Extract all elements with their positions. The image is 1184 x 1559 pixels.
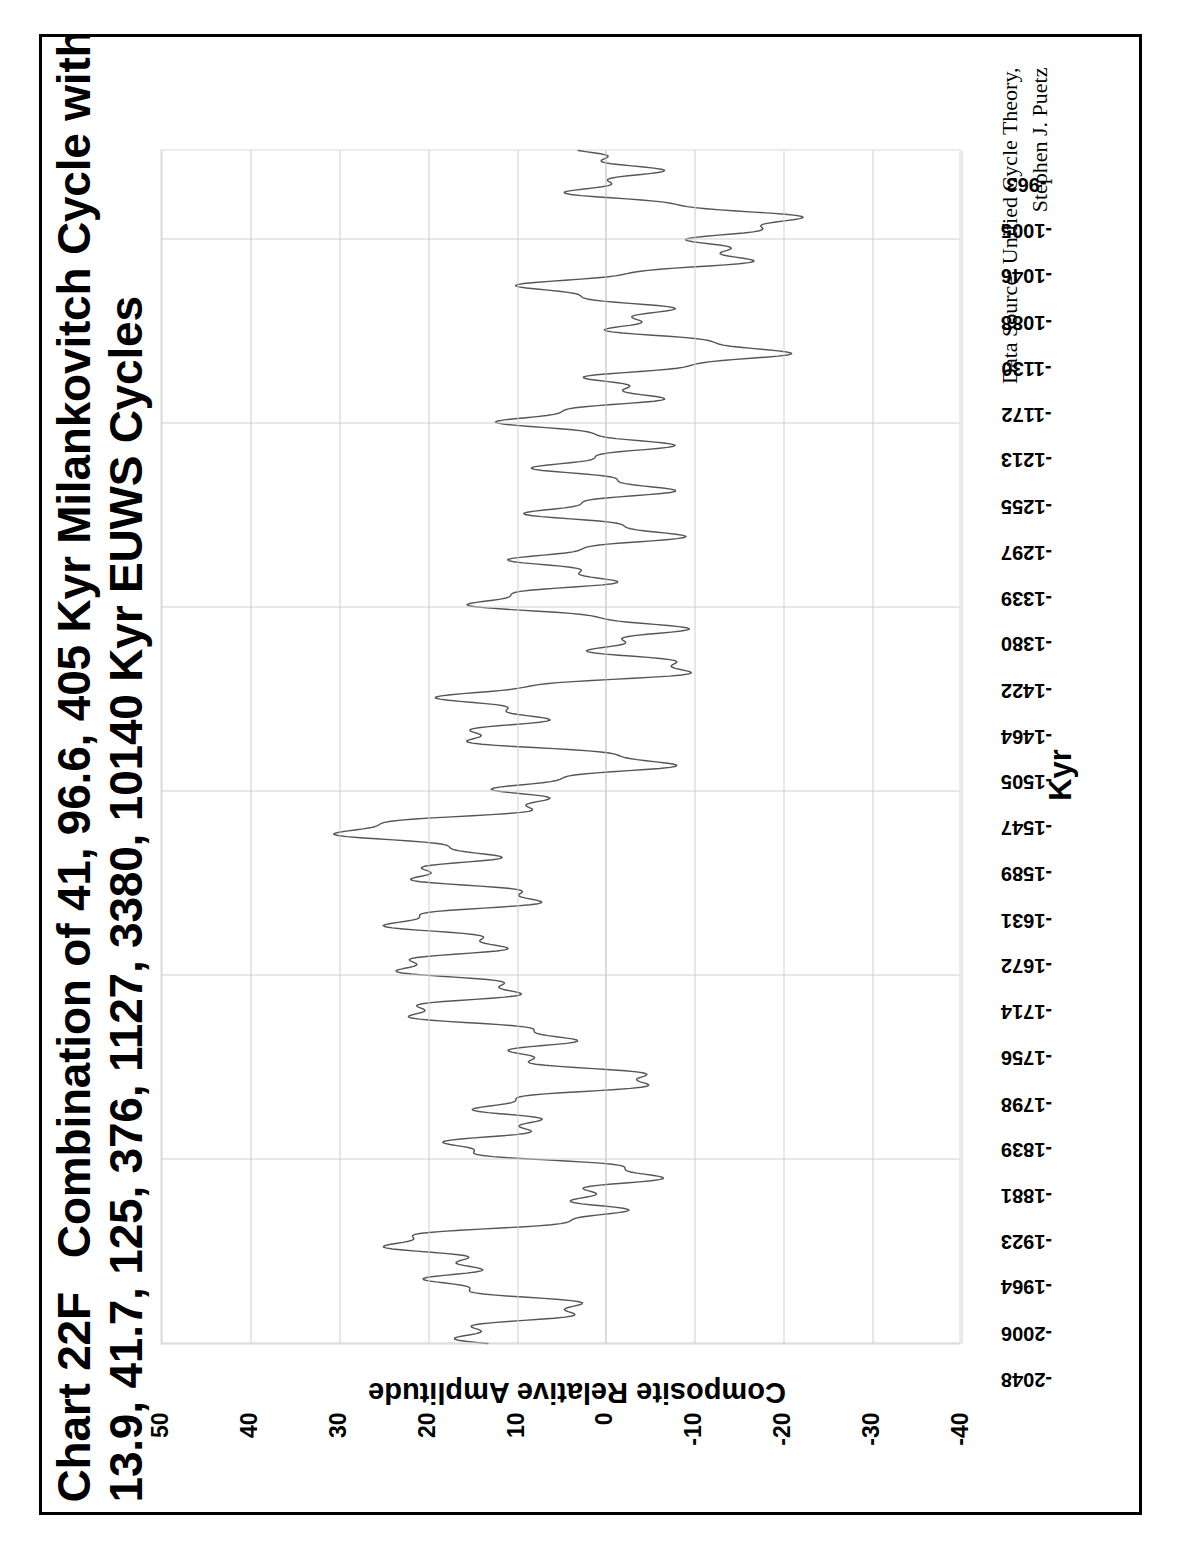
y-gridline (161, 150, 162, 1343)
x-axis-tick-label: -1839 (966, 1137, 1086, 1160)
x-axis-tick-label: -1756 (966, 1045, 1086, 1068)
x-axis-tick-label: -2048 (966, 1367, 1086, 1390)
x-axis-tick-label: -1088 (966, 310, 1086, 333)
chart-canvas: Chart 22FCombination of 41, 96.6, 405 Ky… (42, 37, 1139, 1512)
x-axis-tick-label: -1130 (966, 356, 1086, 379)
y-axis-tick-label: 10 (502, 1412, 529, 1492)
x-axis-tick-label: -1339 (966, 586, 1086, 609)
x-gridline (161, 606, 959, 607)
y-axis-tick-label: -40 (947, 1412, 974, 1492)
x-axis-tick-label: -1422 (966, 678, 1086, 701)
x-gridline (161, 974, 959, 975)
plot-area (160, 149, 960, 1344)
x-axis-tick-label: -1172 (966, 402, 1086, 425)
x-gridline (161, 1158, 959, 1159)
x-axis-tick-label: -1005 (966, 218, 1086, 241)
y-axis-tick-label: 0 (591, 1412, 618, 1492)
chart-title-block: Chart 22FCombination of 41, 96.6, 405 Ky… (48, 322, 151, 1502)
y-gridline (961, 150, 962, 1343)
y-gridline (517, 150, 518, 1343)
x-axis-tick-label: -1881 (966, 1183, 1086, 1206)
x-axis-tick-label: -1798 (966, 1092, 1086, 1115)
y-axis-tick-label: 30 (324, 1412, 351, 1492)
x-axis-tick-label: -1923 (966, 1229, 1086, 1252)
y-gridline (428, 150, 429, 1343)
x-gridline (161, 422, 959, 423)
y-gridline (872, 150, 873, 1343)
x-axis-tick-label: -1964 (966, 1274, 1086, 1297)
y-gridline (339, 150, 340, 1343)
chart-title-line-1: Chart 22FCombination of 41, 96.6, 405 Ky… (48, 322, 100, 1502)
y-gridline (694, 150, 695, 1343)
x-axis-tick-label: -1547 (966, 815, 1086, 838)
x-axis-tick-label: -1255 (966, 494, 1086, 517)
y-axis-tick-label: 50 (147, 1412, 174, 1492)
y-axis-tick-label: -20 (769, 1412, 796, 1492)
x-axis-tick-label: -1046 (966, 263, 1086, 286)
x-gridline (161, 1342, 959, 1343)
chart-title-text-1: Combination of 41, 96.6, 405 Kyr Milanko… (47, 37, 99, 1258)
chart-title-line-2: 13.9, 41.7, 125, 376, 1127, 3380, 10140 … (100, 322, 152, 1502)
x-axis-tick-label: -1213 (966, 447, 1086, 470)
x-axis-tick-label: -1631 (966, 908, 1086, 931)
rotated-chart-wrapper: Chart 22FCombination of 41, 96.6, 405 Ky… (42, 37, 1139, 1512)
x-axis-tick-label: -1589 (966, 861, 1086, 884)
y-axis-tick-label: 20 (413, 1412, 440, 1492)
x-axis-tick-label: -2006 (966, 1321, 1086, 1344)
x-axis-tick-label: -1297 (966, 540, 1086, 563)
x-axis-tick-label: -963 (966, 172, 1086, 195)
x-axis-tick-label: -1672 (966, 953, 1086, 976)
y-gridline (250, 150, 251, 1343)
data-series-line (161, 150, 959, 1343)
x-axis-tick-label: -1714 (966, 999, 1086, 1022)
y-gridline (783, 150, 784, 1343)
y-axis-tick-label: -10 (680, 1412, 707, 1492)
y-gridline (605, 150, 606, 1343)
x-axis-tick-label: -1505 (966, 769, 1086, 792)
x-axis-tick-label: -1380 (966, 631, 1086, 654)
y-axis-tick-label: 40 (235, 1412, 262, 1492)
x-gridline (161, 238, 959, 239)
y-axis-tick-label: -30 (858, 1412, 885, 1492)
x-gridline (161, 790, 959, 791)
x-axis-tick-label: -1464 (966, 724, 1086, 747)
y-axis-title: Composite Relative Amplitude (267, 1376, 887, 1409)
chart-number-label: Chart 22F (47, 1292, 99, 1502)
